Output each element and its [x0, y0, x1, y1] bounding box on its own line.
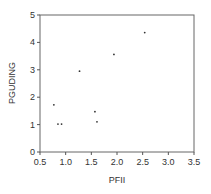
x-tick-label: 2.0: [111, 157, 124, 167]
data-point: [79, 70, 81, 72]
y-tick-label: 5: [30, 10, 35, 20]
y-axis-title: PGUDING: [7, 62, 17, 104]
x-tick-label: 0.5: [34, 157, 47, 167]
scatter-chart: 0.51.01.52.02.53.03.5 012345 PFII PGUDIN…: [0, 0, 211, 194]
data-point: [144, 32, 146, 34]
data-point: [53, 104, 55, 106]
data-points: [53, 32, 146, 125]
y-tick-label: 2: [30, 92, 35, 102]
x-axis-title: PFII: [109, 175, 126, 185]
data-point: [61, 123, 63, 125]
plot-frame: [40, 15, 194, 152]
x-tick-label: 1.5: [85, 157, 98, 167]
x-tick-label: 2.5: [136, 157, 149, 167]
x-tick-label: 3.5: [188, 157, 201, 167]
x-tick-label: 3.0: [162, 157, 175, 167]
y-tick-label: 4: [30, 37, 35, 47]
data-point: [96, 121, 98, 123]
y-tick-label: 1: [30, 120, 35, 130]
data-point: [113, 54, 115, 56]
data-point: [94, 111, 96, 113]
y-tick-label: 3: [30, 65, 35, 75]
y-axis-ticks: 012345: [30, 10, 40, 157]
y-tick-label: 0: [30, 147, 35, 157]
x-axis-ticks: 0.51.01.52.02.53.03.5: [34, 152, 201, 167]
data-point: [57, 123, 59, 125]
x-tick-label: 1.0: [59, 157, 72, 167]
